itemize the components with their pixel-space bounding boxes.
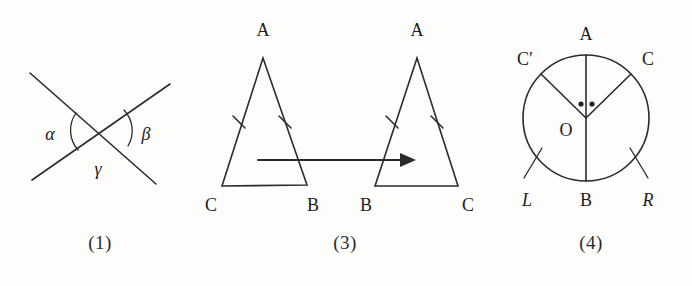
figure-caption-3: (3) [200, 232, 490, 254]
right-triangle-vertex-a: A [411, 20, 424, 40]
left-triangle-group: A C B [205, 20, 319, 215]
left-triangle-tick-right-leg [279, 116, 291, 128]
equal-angle-dot-right [589, 101, 594, 106]
transformation-arrow [258, 153, 416, 167]
congruent-triangles-svg: A C B A B C [200, 0, 490, 230]
figure-circle-diagram: A B O C C′ L R (4) [490, 0, 692, 286]
angle-label-alpha: α [45, 124, 55, 144]
figure-caption-1: (1) [0, 232, 200, 254]
equal-angle-dot-left [578, 101, 583, 106]
figure-congruent-triangles: A C B A B C (3) [200, 0, 490, 286]
left-triangle-outline [222, 58, 307, 186]
right-triangle-vertex-b: B [360, 195, 372, 215]
crossed-lines-svg: α β γ [0, 0, 200, 230]
circle-label-l: L [521, 190, 532, 210]
figure-caption-4: (4) [490, 232, 692, 254]
radius-oc-prime [541, 74, 586, 118]
circle-label-c: C [642, 49, 654, 69]
figure-sheet: α β γ (1) A C B [0, 0, 692, 286]
circle-diagram-svg: A B O C C′ L R [490, 0, 692, 230]
left-triangle-vertex-b: B [307, 195, 319, 215]
circle-label-b: B [580, 190, 592, 210]
angle-label-gamma: γ [94, 159, 102, 179]
angle-arc-alpha [71, 113, 78, 150]
circle-label-c-prime: C′ [517, 49, 533, 69]
circle-label-a: A [580, 24, 593, 44]
transformation-arrow-head [400, 153, 416, 167]
right-triangle-group: A B C [360, 20, 474, 215]
radius-oc [586, 74, 631, 118]
right-triangle-tick-right-leg [431, 116, 443, 128]
circle-label-o: O [560, 120, 573, 140]
figure-crossed-lines: α β γ (1) [0, 0, 200, 286]
left-triangle-vertex-c: C [205, 195, 217, 215]
left-triangle-vertex-a: A [257, 20, 270, 40]
right-triangle-vertex-c: C [462, 195, 474, 215]
angle-label-beta: β [141, 124, 151, 144]
circle-label-r: R [642, 190, 654, 210]
right-triangle-outline [375, 58, 458, 186]
